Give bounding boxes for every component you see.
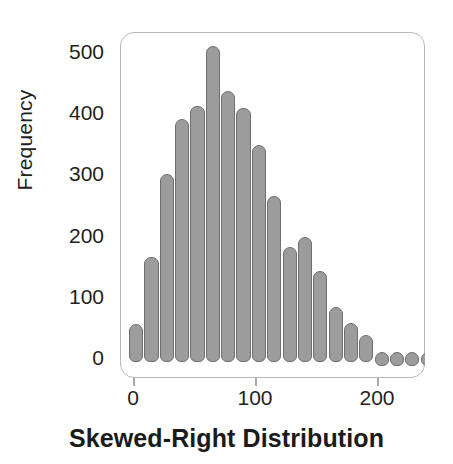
histogram-bar [267,196,281,362]
x-tick-label-0: 0 [103,386,163,410]
histogram-bar [405,352,419,366]
histogram-bar [298,237,312,362]
histogram-bar [160,174,174,362]
histogram-bar [252,145,266,362]
chart-title: Skewed-Right Distribution [0,424,453,453]
histogram-bar [421,352,425,366]
y-axis-tick-labels: 5004003002001000 [48,0,104,464]
y-tick-label-300: 300 [52,163,104,184]
histogram-bar [313,271,327,362]
histogram-bar [190,106,204,362]
histogram-figure: Frequency 5004003002001000 Skewed-Right … [0,0,453,464]
histogram-bar [144,257,158,362]
histogram-bar [375,352,389,366]
y-tick-label-200: 200 [52,225,104,246]
histogram-bar [236,108,250,362]
histogram-bar [129,324,143,362]
x-tick-label-100: 100 [225,386,285,410]
y-tick-label-500: 500 [52,41,104,62]
y-axis-label: Frequency [13,60,53,220]
x-tick-mark-0 [133,378,135,386]
histogram-bar [206,46,220,362]
x-tick-label-200: 200 [347,386,407,410]
histogram-bar [283,247,297,362]
histogram-bar [390,352,404,366]
histogram-bars [120,32,425,378]
histogram-bar [344,323,358,362]
histogram-bar [329,307,343,362]
histogram-bar [175,119,189,362]
histogram-bar [221,91,235,362]
y-tick-label-400: 400 [52,102,104,123]
histogram-bar [359,335,373,362]
x-tick-mark-200 [377,378,379,386]
y-tick-label-100: 100 [52,286,104,307]
y-tick-label-0: 0 [52,347,104,368]
x-tick-mark-100 [255,378,257,386]
